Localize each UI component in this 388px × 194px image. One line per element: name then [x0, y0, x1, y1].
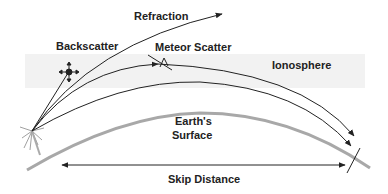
transmitter-burst-icon [20, 127, 44, 155]
label-skip-distance: Skip Distance [168, 173, 240, 185]
label-meteor-scatter: Meteor Scatter [155, 41, 232, 53]
label-earth-line2: Surface [172, 129, 212, 141]
label-ionosphere: Ionosphere [272, 59, 331, 71]
label-refraction: Refraction [134, 10, 189, 22]
label-earth-line1: Earth's [175, 115, 212, 127]
label-backscatter: Backscatter [56, 40, 119, 52]
propagation-diagram: Refraction Backscatter Meteor Scatter Io… [0, 0, 388, 194]
